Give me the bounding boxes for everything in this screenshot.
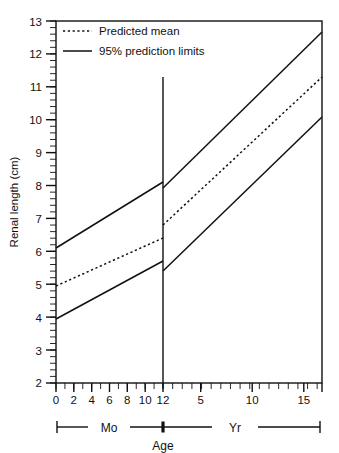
y-tick-label: 8 [36,180,42,192]
y-tick-label: 13 [29,16,42,28]
x-axis-unit-bracket [57,421,320,433]
y-axis-title: Renal length (cm) [8,156,20,247]
x-tick-label-month: 12 [157,394,170,406]
y-tick-label: 4 [36,312,43,324]
x-tick-label-year: 15 [297,394,310,406]
x-axis-minor-ticks [56,383,317,389]
x-tick-label-year: 5 [197,394,203,406]
x-tick-label-month: 2 [71,394,77,406]
chart-svg: 13 12 11 10 9 8 7 6 5 4 3 2 Renal length… [0,0,339,453]
x-tick-label-month: 4 [88,394,95,406]
y-axis-tick-labels: 13 12 11 10 9 8 7 6 5 4 3 2 [29,16,42,390]
y-tick-label: 5 [36,279,42,291]
renal-length-growth-chart: 13 12 11 10 9 8 7 6 5 4 3 2 Renal length… [0,0,339,453]
y-tick-label: 9 [36,147,42,159]
x-axis-tick-labels-years: 5 10 15 [197,394,310,406]
x-axis-tick-labels-months: 0 2 4 6 8 10 12 [53,394,170,406]
y-tick-label: 12 [29,48,42,60]
legend-label-prediction-limits: 95% prediction limits [99,45,205,57]
x-tick-label-month: 8 [124,394,130,406]
y-tick-label: 11 [30,81,42,93]
x-tick-label-month: 6 [106,394,112,406]
x-tick-label-year: 10 [246,394,259,406]
legend-label-predicted-mean: Predicted mean [99,25,180,37]
x-tick-label-month: 0 [53,394,59,406]
x-unit-label-months: Mo [101,421,118,435]
x-unit-label-years: Yr [229,421,241,435]
y-axis-minor-ticks [50,21,56,383]
x-axis-major-ticks [56,383,322,392]
y-tick-label: 6 [36,246,42,258]
x-axis-title: Age [152,439,174,453]
y-tick-label: 7 [36,213,42,225]
y-axis-major-ticks [46,21,56,383]
y-tick-label: 3 [36,345,42,357]
y-tick-label: 2 [36,377,42,389]
plot-area-frame [56,21,322,383]
x-tick-label-month: 10 [139,394,152,406]
y-tick-label: 10 [29,114,42,126]
